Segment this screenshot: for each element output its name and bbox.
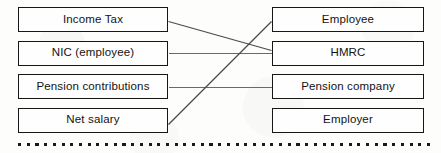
node-net-salary-label: Net salary [66,114,119,126]
node-employee[interactable]: Employee [272,7,424,32]
node-nic-employee-label: NIC (employee) [52,47,135,59]
node-income-tax[interactable]: Income Tax [18,7,168,32]
node-hmrc[interactable]: HMRC [272,41,424,66]
node-net-salary[interactable]: Net salary [18,108,168,133]
connector-net-salary-to-employee [169,22,272,125]
node-employee-label: Employee [322,13,374,25]
node-pension-company[interactable]: Pension company [272,74,424,99]
node-employer-label: Employer [323,114,373,126]
dotted-divider [18,143,430,146]
node-pension-contributions-label: Pension contributions [36,80,149,92]
node-income-tax-label: Income Tax [63,13,123,25]
node-pension-contributions[interactable]: Pension contributions [18,74,168,99]
node-pension-company-label: Pension company [301,80,395,92]
diagram-canvas: Income Tax NIC (employee) Pension contri… [0,0,441,153]
node-nic-employee[interactable]: NIC (employee) [18,41,168,66]
connector-income-tax-to-hmrc [169,22,272,51]
node-employer[interactable]: Employer [272,108,424,133]
node-hmrc-label: HMRC [330,47,365,59]
